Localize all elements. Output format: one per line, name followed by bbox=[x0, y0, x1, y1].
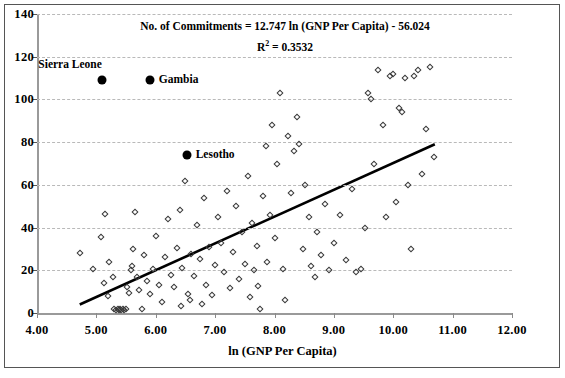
data-point bbox=[155, 282, 162, 289]
data-point bbox=[97, 234, 104, 241]
data-point bbox=[232, 203, 239, 210]
data-point bbox=[197, 255, 204, 262]
data-point bbox=[167, 271, 174, 278]
data-point bbox=[264, 258, 271, 265]
y-axis-tick-label: 140 bbox=[0, 7, 34, 22]
data-point bbox=[361, 224, 368, 231]
y-axis-tick-label: 60 bbox=[0, 177, 34, 192]
data-point bbox=[199, 301, 206, 308]
data-point bbox=[383, 213, 390, 220]
x-axis-tick-label: 7.00 bbox=[185, 323, 245, 338]
chart-figure: No. of Commitments = 12.747 ln (GNP Per … bbox=[0, 0, 565, 378]
x-axis-tick bbox=[393, 313, 394, 318]
data-point bbox=[348, 186, 355, 193]
data-point bbox=[257, 305, 264, 312]
data-point bbox=[299, 245, 306, 252]
x-axis-tick bbox=[156, 313, 157, 318]
x-axis-tick-label: 12.00 bbox=[482, 323, 542, 338]
data-point bbox=[262, 143, 269, 150]
plot-area: Sierra LeoneGambiaLesotho bbox=[37, 14, 512, 313]
data-point bbox=[405, 181, 412, 188]
data-point bbox=[311, 273, 318, 280]
data-point bbox=[100, 280, 107, 287]
data-point bbox=[336, 211, 343, 218]
data-point bbox=[379, 122, 386, 129]
data-point bbox=[176, 207, 183, 214]
y-axis-tick-label: 120 bbox=[0, 49, 34, 64]
data-point bbox=[149, 266, 156, 273]
y-gridline bbox=[37, 14, 512, 15]
y-axis-tick-label: 20 bbox=[0, 263, 34, 278]
data-point-label: Gambia bbox=[159, 73, 199, 85]
data-point bbox=[130, 245, 137, 252]
x-axis-tick bbox=[275, 313, 276, 318]
data-point bbox=[302, 181, 309, 188]
data-point bbox=[418, 171, 425, 178]
data-point bbox=[226, 285, 233, 292]
data-point bbox=[212, 261, 219, 268]
data-point bbox=[106, 258, 113, 265]
x-axis-tick-label: 8.00 bbox=[245, 323, 305, 338]
data-point bbox=[206, 243, 213, 250]
data-point bbox=[191, 272, 198, 279]
data-point bbox=[342, 256, 349, 263]
data-point bbox=[271, 235, 278, 242]
data-point bbox=[109, 273, 116, 280]
data-point bbox=[415, 66, 422, 73]
data-point bbox=[393, 198, 400, 205]
data-point bbox=[268, 122, 275, 129]
y-axis-tick-label: 80 bbox=[0, 135, 34, 150]
data-point bbox=[244, 173, 251, 180]
data-point bbox=[131, 208, 138, 215]
y-gridline bbox=[37, 142, 512, 143]
data-point bbox=[284, 132, 291, 139]
data-point bbox=[410, 72, 417, 79]
x-axis-tick-label: 6.00 bbox=[126, 323, 186, 338]
data-point bbox=[238, 228, 245, 235]
data-point-label: Lesotho bbox=[196, 148, 235, 160]
data-point bbox=[390, 70, 397, 77]
data-point bbox=[133, 273, 140, 280]
data-point bbox=[125, 289, 132, 296]
data-point bbox=[182, 177, 189, 184]
y-gridline bbox=[37, 99, 512, 100]
data-point bbox=[146, 290, 153, 297]
data-point bbox=[229, 249, 236, 256]
data-point bbox=[408, 245, 415, 252]
y-axis-tick-label: 40 bbox=[0, 220, 34, 235]
data-point bbox=[248, 220, 255, 227]
data-point bbox=[422, 126, 429, 133]
data-point bbox=[280, 266, 287, 273]
x-axis-tick-label: 10.00 bbox=[363, 323, 423, 338]
data-point bbox=[321, 201, 328, 208]
data-point bbox=[266, 211, 273, 218]
data-point bbox=[367, 96, 374, 103]
x-axis-tick-label: 9.00 bbox=[304, 323, 364, 338]
x-axis-tick bbox=[334, 313, 335, 318]
y-axis-tick-label: 100 bbox=[0, 92, 34, 107]
x-axis-title: ln (GNP Per Capita) bbox=[0, 344, 565, 359]
x-axis-tick bbox=[215, 313, 216, 318]
data-point bbox=[188, 251, 195, 258]
data-point bbox=[170, 284, 177, 291]
y-gridline bbox=[37, 185, 512, 186]
data-point bbox=[253, 242, 260, 249]
data-point bbox=[215, 213, 222, 220]
data-point bbox=[290, 147, 297, 154]
data-point bbox=[235, 275, 242, 282]
data-point bbox=[102, 210, 109, 217]
x-axis-tick bbox=[96, 313, 97, 318]
x-axis-tick bbox=[37, 313, 38, 318]
y-axis-tick-label: 0 bbox=[0, 306, 34, 321]
data-point bbox=[277, 89, 284, 96]
data-point bbox=[201, 194, 208, 201]
data-point bbox=[136, 286, 143, 293]
data-point bbox=[241, 260, 248, 267]
data-point bbox=[173, 244, 180, 251]
data-point bbox=[203, 282, 210, 289]
data-point bbox=[218, 239, 225, 246]
y-gridline bbox=[37, 228, 512, 229]
data-point bbox=[76, 250, 83, 257]
x-axis-tick-label: 11.00 bbox=[423, 323, 483, 338]
data-point bbox=[143, 277, 150, 284]
